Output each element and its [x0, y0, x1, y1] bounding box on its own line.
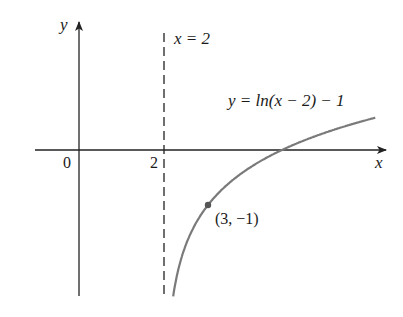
asymptote-label: x = 2: [173, 29, 211, 48]
tick-2-label: 2: [150, 154, 158, 171]
chart-canvas: y x 0 2 x = 2 y = ln(x − 2) − 1 (3, −1): [0, 0, 403, 317]
origin-label: 0: [63, 154, 71, 171]
x-axis-label: x: [374, 153, 383, 172]
point-label: (3, −1): [215, 210, 259, 228]
curve-label: y = ln(x − 2) − 1: [226, 91, 345, 110]
log-curve: [173, 118, 375, 297]
y-axis-label: y: [58, 15, 68, 34]
point-3-neg1: [205, 202, 211, 208]
